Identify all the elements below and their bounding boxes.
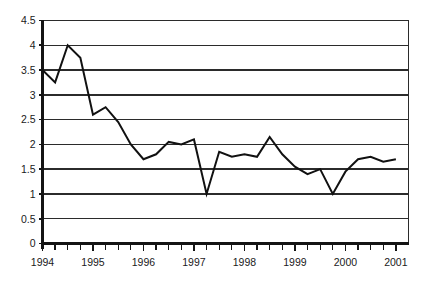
y-axis xyxy=(39,20,43,249)
x-tick-label-1998: 1998 xyxy=(233,256,257,268)
x-tick-label-1994: 1994 xyxy=(31,256,55,268)
x-axis-tick-labels: 19941995199619971998199920002001 xyxy=(31,256,408,268)
x-tick-label-1996: 1996 xyxy=(132,256,156,268)
x-tick-label-1999: 1999 xyxy=(283,256,307,268)
y-tick-label-0: 0 xyxy=(30,237,36,249)
x-tick-label-1995: 1995 xyxy=(81,256,105,268)
y-tick-label-2.5: 2.5 xyxy=(21,113,36,125)
line-chart: 00.511.522.533.544.5 1994199519961997199… xyxy=(0,0,429,294)
y-tick-label-3: 3 xyxy=(30,89,36,101)
y-tick-label-4: 4 xyxy=(30,39,36,51)
x-axis xyxy=(43,244,409,251)
y-tick-label-0.5: 0.5 xyxy=(21,213,36,225)
y-tick-label-2: 2 xyxy=(30,138,36,150)
x-tick-label-1997: 1997 xyxy=(182,256,206,268)
x-tick-label-2000: 2000 xyxy=(334,256,358,268)
y-axis-tick-labels: 00.511.522.533.544.5 xyxy=(21,14,36,249)
y-tick-label-4.5: 4.5 xyxy=(21,14,36,26)
x-tick-label-2001: 2001 xyxy=(384,256,408,268)
gridlines xyxy=(43,21,409,244)
y-tick-label-3.5: 3.5 xyxy=(21,64,36,76)
y-tick-label-1: 1 xyxy=(30,188,36,200)
y-tick-label-1.5: 1.5 xyxy=(21,163,36,175)
chart-canvas: 00.511.522.533.544.5 1994199519961997199… xyxy=(0,0,429,294)
